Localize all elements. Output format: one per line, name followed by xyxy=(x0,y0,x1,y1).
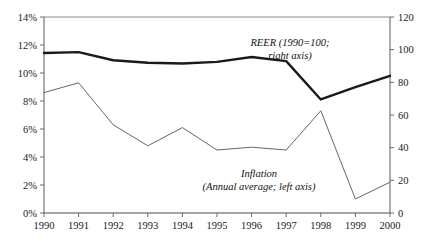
left-axis-tick-label: 4% xyxy=(23,152,37,163)
left-axis-tick-label: 0% xyxy=(23,208,37,219)
x-axis-tick-label: 1998 xyxy=(310,220,331,231)
dual-axis-line-chart: 0%2%4%6%8%10%12%14% 020406080100120 1990… xyxy=(0,0,433,249)
x-axis-tick-label: 1996 xyxy=(241,220,262,231)
inflation-annotation-line: Inflation xyxy=(240,168,277,179)
x-axis-tick-label: 1993 xyxy=(137,220,158,231)
right-axis-tick-label: 120 xyxy=(398,12,414,23)
left-axis-tick-label: 2% xyxy=(23,180,37,191)
x-axis-tick-label: 1991 xyxy=(68,220,89,231)
x-axis-tick-label: 1997 xyxy=(276,220,297,231)
x-axis-tick-label: 1994 xyxy=(172,220,194,231)
left-axis-tick-label: 8% xyxy=(23,96,37,107)
chart-background xyxy=(0,0,433,249)
x-axis-tick-label: 1995 xyxy=(207,220,228,231)
reer-annotation-line: REER (1990=100; xyxy=(249,37,329,49)
left-axis-tick-label: 6% xyxy=(23,124,37,135)
right-axis-tick-label: 20 xyxy=(398,175,409,186)
chart-container: 0%2%4%6%8%10%12%14% 020406080100120 1990… xyxy=(0,0,433,249)
left-axis-tick-label: 14% xyxy=(18,12,38,23)
right-axis-tick-label: 80 xyxy=(398,77,409,88)
x-axis-tick-label: 1999 xyxy=(345,220,366,231)
x-axis-tick-label: 1992 xyxy=(103,220,124,231)
left-axis-tick-label: 12% xyxy=(18,40,38,51)
right-axis-tick-label: 40 xyxy=(398,142,409,153)
left-axis-tick-label: 10% xyxy=(18,68,38,79)
right-axis-tick-label: 100 xyxy=(398,44,414,55)
right-axis-tick-label: 60 xyxy=(398,110,409,121)
x-axis-tick-label: 2000 xyxy=(380,220,401,231)
inflation-annotation-line: (Annual average; left axis) xyxy=(203,181,316,193)
x-axis-tick-label: 1990 xyxy=(34,220,55,231)
right-axis-tick-label: 0 xyxy=(398,208,403,219)
reer-annotation-line: right axis) xyxy=(268,50,312,62)
